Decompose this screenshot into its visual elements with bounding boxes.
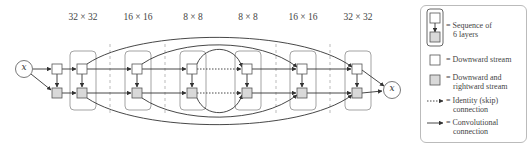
resolution-label-32a: 32 × 32 <box>63 12 103 22</box>
legend-identity-text: = Identity (skip) connection <box>446 97 498 114</box>
group-frame-32b <box>345 51 371 110</box>
layer-group-frames <box>70 51 371 110</box>
resolution-label-16b: 16 × 16 <box>283 12 323 22</box>
resolution-dividers <box>110 44 330 114</box>
group-frame-16b <box>290 51 316 110</box>
legend-downward-rightward-text: = Downward and rightward stream <box>446 74 507 91</box>
resolution-label-32b: 32 × 32 <box>338 12 378 22</box>
resolution-label-16a: 16 × 16 <box>118 12 158 22</box>
resolution-label-8a: 8 × 8 <box>173 12 213 22</box>
group-frame-8a <box>180 51 206 110</box>
output-x-label: x <box>388 83 396 93</box>
legend-convolutional-text: = Convolutional connection <box>446 119 498 136</box>
resolution-label-8b: 8 × 8 <box>228 12 268 22</box>
vertical-connections <box>57 74 357 87</box>
long-range-connections <box>87 37 352 124</box>
legend-downward-text: = Downward stream <box>446 56 511 65</box>
input-x-label: x <box>20 62 28 72</box>
identity-connections <box>197 69 241 93</box>
legend-sequence-text: = Sequence of 6 layers <box>446 22 492 39</box>
